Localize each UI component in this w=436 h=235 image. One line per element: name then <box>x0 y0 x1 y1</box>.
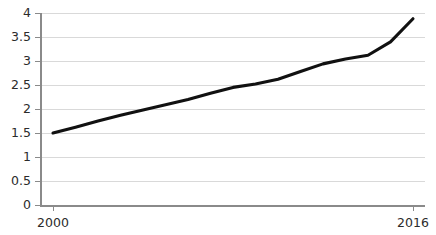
series-line <box>53 19 413 133</box>
y-tick-label: 3 <box>23 55 31 68</box>
y-tick-label: 0.5 <box>11 175 31 188</box>
line-chart: 00.511.522.533.54 20002016 <box>0 0 436 235</box>
data-series <box>53 19 413 133</box>
y-tick-label: 1 <box>23 151 31 164</box>
y-tick-label: 2 <box>23 103 31 116</box>
y-tick-label: 0 <box>23 199 31 212</box>
gridlines <box>40 14 425 182</box>
x-tick-label: 2016 <box>397 217 429 230</box>
y-tick-label: 3.5 <box>11 31 31 44</box>
x-tick-label: 2000 <box>37 217 69 230</box>
y-tick-label: 2.5 <box>11 79 31 92</box>
y-tick-label: 1.5 <box>11 127 31 140</box>
chart-canvas <box>0 0 436 235</box>
y-tick-label: 4 <box>23 7 31 20</box>
